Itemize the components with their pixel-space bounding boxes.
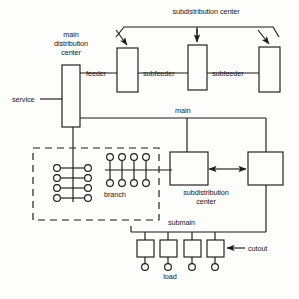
cutout-label: cutout [248, 244, 267, 253]
load-terminal-3 [189, 257, 196, 270]
load-terminal-2 [165, 257, 172, 270]
load-box-1 [137, 240, 154, 257]
subfeeder-box-2 [259, 47, 280, 92]
submain-label: submain [168, 218, 195, 227]
subfeeder-label-2: subfeeder [212, 69, 244, 78]
load-terminal-4 [212, 257, 219, 270]
load-label: load [150, 272, 190, 281]
fanout-arrow-left [116, 30, 127, 45]
branch-label: branch [104, 190, 126, 199]
subdistribution-center-top-label: subdistribution center [151, 7, 261, 16]
subdistribution-box-right [248, 152, 283, 185]
service-label: service [12, 95, 34, 104]
load-box-4 [207, 240, 224, 257]
load-box-2 [160, 240, 177, 257]
main-distribution-center-label-line1: main [41, 30, 101, 39]
subdistribution-center-mid-label-line2: center [156, 197, 256, 206]
subfeeder-label-1: subfeeder [143, 69, 175, 78]
subfeeder-box-1 [188, 45, 207, 90]
main-distribution-center-label-line3: center [41, 48, 101, 57]
distribution-diagram: subdistribution center main distribution… [0, 0, 299, 299]
main-label: main [175, 106, 190, 115]
subdistribution-center-mid-label-line1: subdistribution [156, 188, 256, 197]
load-box-3 [184, 240, 201, 257]
fanout-arrow-right [258, 30, 269, 44]
feeder-box [117, 48, 138, 92]
main-distribution-center-box [62, 65, 80, 127]
main-distribution-center-label-line2: distribution [41, 39, 101, 48]
branch-enclosure [33, 148, 159, 220]
feeder-label: feeder [86, 69, 106, 78]
load-terminal-1 [142, 257, 149, 270]
subdistribution-box-left [170, 152, 208, 185]
